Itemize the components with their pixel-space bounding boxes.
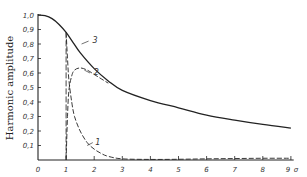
curve-label-2: 2 (94, 68, 99, 77)
x-tick-label: 9 (286, 166, 291, 174)
y-axis-label: Harmonic amplitude (4, 36, 15, 140)
y-tick-label: 0,1 (23, 142, 34, 150)
y-tick-label: 0,8 (23, 41, 35, 49)
harmonic-amplitude-chart: 0123456789σ0,10,20,30,40,50,60,70,80,91,… (0, 0, 307, 177)
x-tick-label: 4 (148, 166, 152, 174)
curve-label-3: 3 (92, 36, 97, 45)
y-tick-label: 0,7 (23, 55, 35, 63)
y-tick-label: 0,3 (23, 113, 34, 121)
curve-2 (66, 68, 108, 160)
x-tick-label: 0 (36, 166, 41, 174)
x-tick-label: 1 (64, 166, 68, 174)
x-tick-label: 7 (232, 166, 237, 174)
x-tick-label: 3 (120, 166, 124, 174)
x-tick-label: 5 (176, 166, 181, 174)
y-tick-label: 0,6 (23, 70, 35, 78)
y-tick-label: 0,9 (23, 26, 35, 34)
tick-labels: 0123456789σ0,10,20,30,40,50,60,70,80,91,… (23, 12, 299, 175)
x-axis-label: σ (294, 166, 299, 174)
x-tick-label: 2 (92, 166, 97, 174)
y-tick-label: 0,4 (23, 99, 34, 107)
x-tick-label: 8 (261, 166, 266, 174)
curve-label-1: 1 (95, 138, 100, 147)
x-tick-label: 6 (204, 166, 209, 174)
curves (38, 15, 291, 160)
y-tick-label: 0,2 (23, 128, 35, 136)
y-tick-label: 0,5 (23, 84, 35, 92)
curve-3 (38, 15, 291, 128)
y-tick-label: 1,0 (23, 12, 35, 20)
axes (38, 14, 294, 160)
curve-labels: 123 (82, 36, 101, 147)
